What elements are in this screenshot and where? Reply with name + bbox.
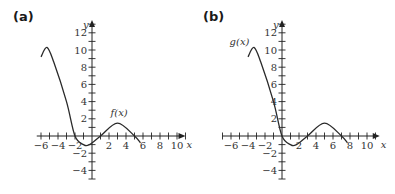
graph-b: −6−4−2246810−4−224681012xyg(x): [190, 0, 395, 194]
y-tick-label: 10: [74, 45, 87, 56]
y-tick-label: 8: [81, 62, 87, 73]
y-tick-label: 6: [271, 79, 277, 90]
function-label: g(x): [230, 36, 250, 47]
x-tick-label: −4: [241, 140, 256, 151]
x-tick-label: −6: [34, 140, 49, 151]
y-tick-label: 2: [81, 113, 87, 124]
x-axis-arrow-icon: [179, 133, 186, 139]
x-tick-label: 10: [361, 140, 374, 151]
x-tick-label: 2: [106, 140, 112, 151]
function-curve: [41, 47, 140, 145]
y-tick-label: −2: [262, 148, 277, 159]
x-tick-label: 10: [171, 140, 184, 151]
x-tick-label: 6: [140, 140, 146, 151]
y-axis-arrow-icon: [89, 20, 95, 27]
y-tick-label: 2: [271, 113, 277, 124]
y-tick-label: −2: [72, 148, 87, 159]
panel-a: (a) −6−4−2246810−4−224681012xyf(x): [0, 0, 197, 194]
x-axis-label: x: [381, 139, 387, 150]
y-tick-label: 8: [271, 62, 277, 73]
y-tick-label: 4: [81, 96, 87, 107]
panel-b: (b) −6−4−2246810−4−224681012xyg(x): [190, 0, 387, 194]
y-tick-label: 10: [264, 45, 277, 56]
x-axis-arrow-icon: [373, 133, 380, 139]
graph-a: −6−4−2246810−4−224681012xyf(x): [0, 0, 197, 194]
x-tick-label: 4: [313, 140, 319, 151]
x-tick-label: 6: [330, 140, 336, 151]
x-tick-label: 8: [157, 140, 163, 151]
y-tick-label: −4: [72, 165, 87, 176]
x-tick-label: −6: [224, 140, 239, 151]
y-axis-label: y: [82, 19, 89, 30]
y-tick-label: −4: [262, 165, 277, 176]
y-axis-arrow-icon: [279, 20, 285, 27]
y-axis-label: y: [272, 19, 279, 30]
x-tick-label: −4: [51, 140, 66, 151]
function-curve: [248, 47, 347, 145]
function-label: f(x): [110, 107, 128, 118]
x-tick-label: 8: [347, 140, 353, 151]
x-tick-label: 4: [123, 140, 129, 151]
y-tick-label: 6: [81, 79, 87, 90]
